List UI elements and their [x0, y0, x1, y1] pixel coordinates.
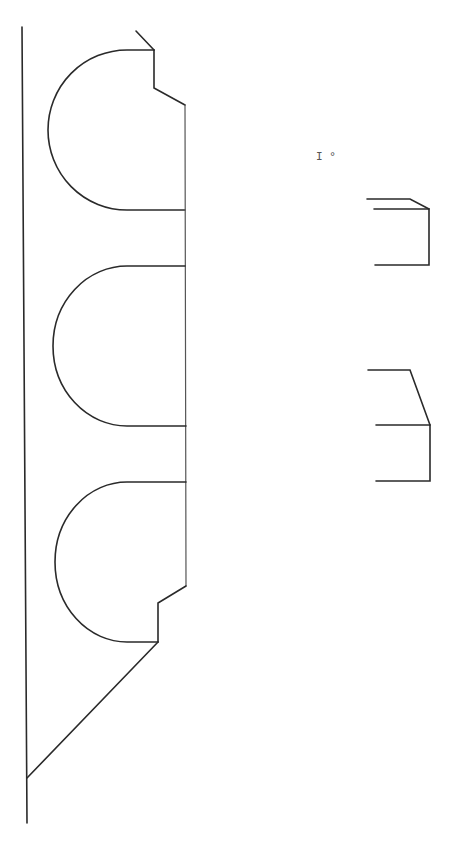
profile-middle — [53, 266, 186, 426]
detail-upper — [367, 199, 429, 265]
diagram-label: I ° — [316, 150, 336, 163]
detail-lower — [368, 370, 430, 481]
base-line — [22, 27, 27, 823]
diagram-canvas: I ° — [0, 0, 466, 853]
detail-lower-bracket — [376, 425, 430, 481]
top-tick — [136, 31, 154, 50]
bottom-diagonal — [27, 642, 158, 778]
profile-bottom — [55, 482, 186, 642]
profile-top — [48, 31, 185, 210]
detail-upper-bevel — [367, 199, 429, 209]
bottom-arc — [55, 482, 186, 642]
top-arc — [48, 50, 185, 210]
detail-upper-bracket — [374, 209, 429, 265]
right-spine — [185, 105, 186, 586]
top-notch — [154, 50, 185, 105]
bottom-notch — [158, 586, 186, 642]
detail-lower-bevel — [368, 370, 430, 425]
